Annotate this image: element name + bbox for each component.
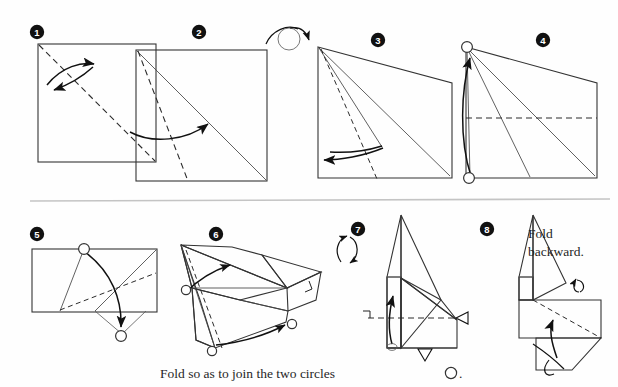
step-7-arrow-loop [387,344,397,351]
rotate-arc-upper [337,236,347,262]
step-8-note-line2: backward. [528,244,584,259]
step-8-horizontal-band [519,300,601,338]
step-1-fold-arrow-upper [47,64,94,85]
step-7-right-angle-mark [363,311,370,318]
step-7-valley-arrowhead-bottom [418,349,432,361]
step-7-body-left [387,277,401,348]
step-2-badge-number: 2 [196,27,201,38]
step-6-circle-marker-right [287,319,296,328]
step-3-group: 3 [318,33,452,179]
turn-over-symbol [266,27,309,50]
step-1-group: 1 [30,25,156,162]
rotate-arc-lower [350,237,357,263]
step-6-crease-spine [181,245,215,348]
step-8-note-line1: Fold [528,226,553,241]
step-8-body-left [519,277,533,300]
step-6-circle-marker-left [181,285,190,294]
origami-diagram-figure: 1 2 3 [0,0,618,387]
caption-circle-symbol [445,367,456,378]
step-5-join-arrow [85,252,121,327]
step-6-right-angle-mark [305,281,312,292]
step-5-valley-fold-line [60,273,156,310]
step-6-valley-fold-line [186,250,222,348]
step-6-group: 6 [181,227,321,356]
step-7-inside-reverse-arrow [389,296,393,344]
step-7-group: 7 [351,215,468,361]
section-divider [30,199,610,201]
step-2-fold-arrow [130,124,208,139]
step-6-facet-right-wing [262,255,321,288]
step-5-paper-rectangle [32,249,157,312]
turn-over-arc-right [290,28,309,40]
step-4-crease-long [467,48,595,176]
step-6-facet-lower-body [192,288,288,348]
step-5-circle-marker-bottom [116,331,127,342]
step-8-cross-arrow [533,344,564,369]
step-1-valley-fold-line [39,45,155,161]
step-8-loop-arrow-top [577,280,584,292]
step-5-badge-number: 5 [34,229,40,240]
step-3-fold-arrow-lower [324,148,383,160]
step-3-crease-mid [319,48,382,147]
rotate-symbol [337,236,357,263]
step-6-circle-marker-bottom [207,346,216,355]
step-4-group: 4 [462,33,597,184]
step-5-crease-left [60,249,84,311]
step-6-badge-number: 6 [213,229,218,240]
step-8-loop-arrow-bottom [545,360,554,375]
step-7-open-arrowhead-right [456,312,468,324]
step-4-badge-number: 4 [540,35,546,46]
turn-over-arc-left [266,27,298,44]
step-4-circle-marker-top [462,42,473,53]
step-1-fold-arrow-lower [54,67,93,90]
step-8-badge-number: 8 [484,224,489,235]
step-1-badge-number: 1 [34,27,40,38]
step-6-facet-right-lower [287,272,321,311]
caption-text-before: Fold so as to join the two circles [160,366,335,381]
diagram-canvas: 1 2 3 [0,0,618,387]
step-8-loop-arrow-top-head [574,279,579,292]
step-4-crease-mid [467,48,530,177]
step-5-circle-marker-top [79,244,90,255]
caption-text-after: . [459,366,462,381]
step-3-badge-number: 3 [375,35,380,46]
step-8-mountain-fold-line [533,300,601,338]
step-4-circle-marker-bottom [464,173,475,184]
turn-over-circle [278,28,300,50]
step-6-crease-lower [240,300,288,311]
step-3-crease-long [319,48,450,176]
step-7-badge-number: 7 [355,224,360,235]
step-5-group: 5 [30,227,157,342]
step-8-fold-back-arrow [551,320,557,358]
step-2-group: 2 [130,25,267,181]
step-5-crease-right [95,250,156,311]
